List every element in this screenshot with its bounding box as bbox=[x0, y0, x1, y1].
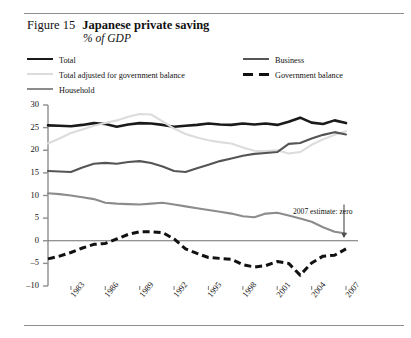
legend-label-total-adjusted: Total adjusted for government balance bbox=[59, 71, 185, 80]
legend-item-government-balance: Government balance bbox=[243, 69, 343, 80]
title-block: Figure 15Japanese private saving % of GD… bbox=[27, 18, 357, 45]
annotation-2007-estimate: 2007 estimate: zero bbox=[293, 207, 352, 216]
legend-label-household: Household bbox=[59, 86, 94, 95]
legend-item-total: Total bbox=[27, 54, 76, 65]
legend-label-total: Total bbox=[59, 56, 76, 65]
series-line-government-balance bbox=[48, 232, 346, 275]
figure-number: Figure 15 bbox=[27, 18, 75, 32]
y-tick-label: 20 bbox=[15, 144, 39, 154]
legend-swatch-total-adjusted bbox=[27, 73, 53, 75]
plot-area: –10–505101520253019831986198919921995199… bbox=[0, 98, 411, 298]
legend-item-total-adjusted: Total adjusted for government balance bbox=[27, 69, 185, 80]
title-line: Figure 15Japanese private saving bbox=[27, 18, 357, 32]
y-tick-label: 0 bbox=[15, 235, 39, 245]
y-tick-label: 25 bbox=[15, 122, 39, 132]
legend-label-business: Business bbox=[275, 56, 304, 65]
legend-swatch-household bbox=[27, 88, 53, 90]
legend-label-government-balance: Government balance bbox=[275, 71, 343, 80]
legend-swatch-business bbox=[243, 58, 269, 60]
figure-subtitle: % of GDP bbox=[83, 32, 357, 45]
y-tick-label: 30 bbox=[15, 99, 39, 109]
chart-svg bbox=[0, 98, 411, 298]
y-tick-label: 15 bbox=[15, 167, 39, 177]
y-tick-label: 5 bbox=[15, 212, 39, 222]
legend-item-household: Household bbox=[27, 84, 94, 95]
legend-swatch-government-balance bbox=[243, 73, 269, 76]
y-tick-label: –5 bbox=[15, 257, 39, 267]
top-rule bbox=[24, 13, 404, 14]
bottom-rule bbox=[24, 325, 404, 326]
y-tick-label: 10 bbox=[15, 190, 39, 200]
figure-title: Japanese private saving bbox=[82, 18, 209, 32]
series-line-total-adjusted-for-government-balance bbox=[48, 114, 346, 153]
annotation-arrow-head bbox=[341, 233, 346, 238]
legend-swatch-total bbox=[27, 58, 53, 60]
chart-legend: Total Total adjusted for government bala… bbox=[27, 54, 387, 98]
legend-item-business: Business bbox=[243, 54, 304, 65]
figure-container: Figure 15Japanese private saving % of GD… bbox=[0, 0, 411, 338]
y-tick-label: –10 bbox=[15, 280, 39, 290]
